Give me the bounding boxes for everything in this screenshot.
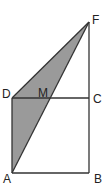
label-m: M — [38, 86, 48, 100]
label-a: A — [3, 172, 11, 185]
label-c: C — [93, 92, 102, 106]
label-f: F — [92, 13, 99, 27]
label-b: B — [94, 172, 102, 185]
geometry-figure: F D M C A B — [0, 0, 107, 185]
label-d: D — [2, 87, 11, 101]
